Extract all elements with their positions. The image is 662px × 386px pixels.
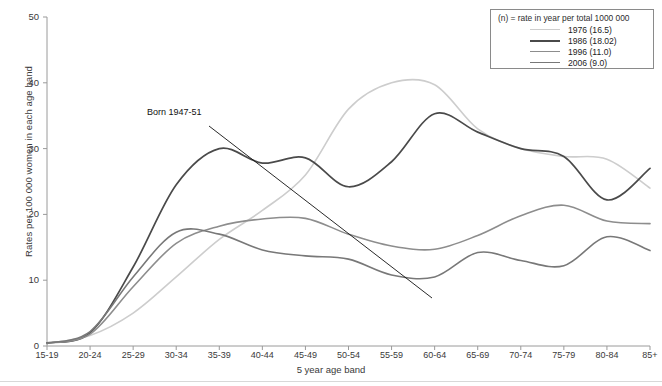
series-line-1986 <box>47 113 650 343</box>
legend-swatch-2006 <box>530 62 560 63</box>
legend-label-2006: 2006 (9.0) <box>568 58 607 68</box>
series-line-1976 <box>47 79 650 343</box>
legend-label-1976: 1976 (16.5) <box>568 25 612 35</box>
y-tick-10: 10 <box>13 274 39 285</box>
x-tick-80-84: 80-84 <box>595 350 618 360</box>
x-tick-25-29: 25-29 <box>122 350 145 360</box>
x-tick-35-39: 35-39 <box>208 350 231 360</box>
x-tick-30-34: 30-34 <box>165 350 188 360</box>
x-tick-45-49: 45-49 <box>294 350 317 360</box>
x-tick-65-69: 65-69 <box>466 350 489 360</box>
legend-swatch-1996 <box>530 51 560 52</box>
legend-swatch-1976 <box>530 29 560 30</box>
y-tick-20: 20 <box>13 208 39 219</box>
y-tick-50: 50 <box>13 11 39 22</box>
series-line-1996 <box>47 205 650 343</box>
legend-entry-1976[interactable]: 1976 (16.5) <box>496 24 648 35</box>
annotation-born-1947-51: Born 1947-51 <box>147 107 202 117</box>
y-tick-30: 30 <box>13 143 39 154</box>
legend-entry-1996[interactable]: 1996 (11.0) <box>496 46 648 57</box>
series-lines <box>47 79 650 343</box>
x-tick-15-19: 15-19 <box>35 350 58 360</box>
legend-label-1996: 1996 (11.0) <box>568 47 611 57</box>
line-chart: Rates per 100 000 women in each age band… <box>0 0 662 386</box>
legend-label-1986: 1986 (18.02) <box>568 36 617 46</box>
series-line-2006 <box>47 229 650 344</box>
y-tick-40: 40 <box>13 77 39 88</box>
x-axis-title: 5 year age band <box>0 364 662 375</box>
legend-title: (n) = rate in year per total 1000 000 <box>496 13 648 23</box>
legend-entry-1986[interactable]: 1986 (18.02) <box>496 35 648 46</box>
x-tick-85+: 85+ <box>642 350 657 360</box>
x-tick-50-54: 50-54 <box>337 350 360 360</box>
x-tick-40-44: 40-44 <box>251 350 274 360</box>
legend-box: (n) = rate in year per total 1000 000 19… <box>490 9 654 69</box>
x-tick-60-64: 60-64 <box>423 350 446 360</box>
legend-swatch-1986 <box>530 40 560 42</box>
x-tick-55-59: 55-59 <box>380 350 403 360</box>
legend-entries: 1976 (16.5)1986 (18.02)1996 (11.0)2006 (… <box>496 24 648 68</box>
x-tick-75-79: 75-79 <box>552 350 575 360</box>
x-tick-20-24: 20-24 <box>79 350 102 360</box>
footer-divider <box>0 381 662 382</box>
x-tick-70-74: 70-74 <box>509 350 532 360</box>
legend-entry-2006[interactable]: 2006 (9.0) <box>496 57 648 68</box>
